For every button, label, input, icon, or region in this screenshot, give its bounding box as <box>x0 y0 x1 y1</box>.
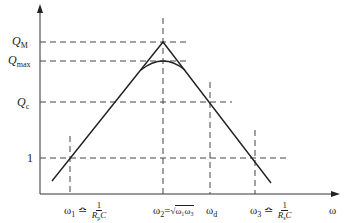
label-x-axis: ω <box>329 205 336 216</box>
label-qc: Qc <box>17 96 29 111</box>
y-axis-arrow-icon <box>37 4 43 13</box>
label-qm: QM <box>12 35 28 50</box>
x-axis-arrow-icon <box>331 191 340 197</box>
label-qmax: Qmax <box>8 54 30 69</box>
label-one: 1 <box>27 152 33 164</box>
label-w1: ω1 ≏ 1RpC <box>64 201 106 222</box>
label-wd: ωd <box>206 205 217 219</box>
q-omega-diagram <box>0 0 346 223</box>
label-w2: ω2=√ω₁ω₃ <box>153 205 194 219</box>
label-w3: ω3 ≏ 1RsC <box>250 201 292 222</box>
asymptote-lines <box>52 42 271 183</box>
